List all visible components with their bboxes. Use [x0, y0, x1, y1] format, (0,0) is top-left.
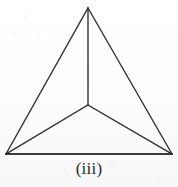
outer-triangle [6, 8, 172, 154]
spoke-left-edge [6, 105, 88, 154]
figure-container: (iii) [0, 0, 178, 187]
spoke-right-edge [88, 105, 172, 154]
figure-caption: (iii) [0, 158, 178, 180]
